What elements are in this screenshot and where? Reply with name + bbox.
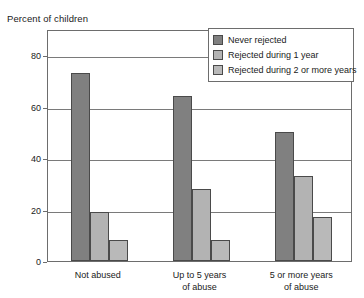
bar (173, 96, 192, 261)
legend-item-label: Never rejected (228, 35, 287, 45)
bar (71, 73, 90, 261)
y-axis-tick-mark (43, 159, 47, 160)
legend-color-swatch-icon (213, 65, 223, 75)
bar (294, 176, 313, 261)
bar (90, 212, 109, 261)
legend-item-label: Rejected during 1 year (228, 50, 319, 60)
legend-color-swatch-icon (213, 50, 223, 60)
legend-item-label: Rejected during 2 or more years (228, 65, 357, 75)
y-axis-tick-label: 60 (7, 103, 41, 113)
legend-color-swatch-icon (213, 35, 223, 45)
y-axis-tick-label: 0 (7, 257, 41, 267)
y-axis-tick-mark (43, 262, 47, 263)
bar (275, 132, 294, 261)
y-axis-tick-label: 20 (7, 206, 41, 216)
legend-item: Rejected during 2 or more years (213, 62, 349, 77)
x-axis-category-label: 5 or more years of abuse (240, 270, 362, 293)
y-axis-tick-mark (43, 56, 47, 57)
chart-title: Percent of children (7, 13, 88, 24)
y-axis-tick-label: 80 (7, 51, 41, 61)
gridline-40 (48, 160, 351, 161)
bar (313, 217, 332, 261)
bar (109, 240, 128, 261)
bar-chart: Percent of children Not abusedUp to 5 ye… (0, 0, 364, 298)
legend-item: Never rejected (213, 32, 349, 47)
gridline-60 (48, 109, 351, 110)
bar (211, 240, 230, 261)
y-axis-tick-mark (43, 108, 47, 109)
chart-legend: Never rejectedRejected during 1 yearReje… (208, 28, 354, 82)
y-axis-tick-mark (43, 211, 47, 212)
bar (192, 189, 211, 261)
y-axis-tick-label: 40 (7, 154, 41, 164)
legend-item: Rejected during 1 year (213, 47, 349, 62)
